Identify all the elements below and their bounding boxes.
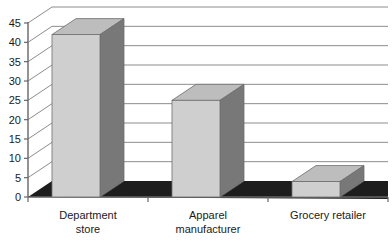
y-axis-label: 20 (9, 114, 21, 126)
y-axis-label: 40 (9, 36, 21, 48)
bar-front-face (292, 182, 340, 197)
y-axis-label: 0 (15, 191, 21, 203)
bar-chart: 051015202530354045 DepartmentstoreAppare… (0, 0, 392, 246)
y-axis-label: 35 (9, 56, 21, 68)
y-axis-label: 45 (9, 17, 21, 29)
y-axis-labels: 051015202530354045 (9, 17, 21, 203)
bar-side-face (220, 84, 244, 197)
y-axis-label: 5 (15, 172, 21, 184)
y-axis-label: 15 (9, 133, 21, 145)
x-axis-labels: DepartmentstoreApparelmanufacturerGrocer… (59, 209, 366, 235)
bar-0 (52, 19, 124, 197)
bar-1 (172, 84, 244, 197)
x-axis-category-label: Apparelmanufacturer (176, 209, 241, 235)
x-axis-category-label: Grocery retailer (290, 209, 366, 221)
bar-front-face (52, 35, 100, 197)
bar-front-face (172, 100, 220, 197)
y-axis-label: 10 (9, 152, 21, 164)
y-axis-label: 30 (9, 75, 21, 87)
y-axis-label: 25 (9, 94, 21, 106)
bar-side-face (100, 19, 124, 197)
x-axis-category-label: Departmentstore (59, 209, 116, 235)
chart-canvas: 051015202530354045 DepartmentstoreAppare… (0, 0, 392, 246)
